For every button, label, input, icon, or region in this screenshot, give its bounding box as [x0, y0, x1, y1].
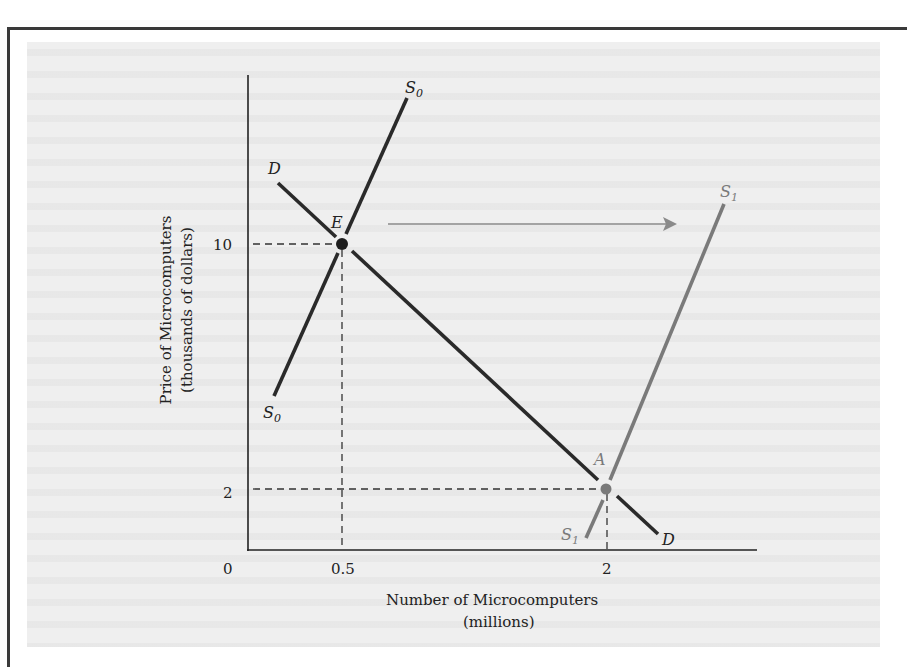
- x-axis-title: Number of Microcomputers: [386, 591, 598, 609]
- equilibrium-point-e: [336, 238, 348, 250]
- label-d-top: D: [267, 159, 281, 178]
- y-tick-10: 10: [213, 236, 232, 254]
- label-s0-bottom: S0: [263, 403, 281, 425]
- label-s0-top: S0: [405, 78, 423, 100]
- y-axis-title: Price of Microcomputers: [157, 216, 175, 405]
- label-s1-top: S1: [720, 182, 738, 204]
- label-point-e: E: [330, 213, 343, 232]
- x-tick-0-5: 0.5: [331, 560, 355, 578]
- demand-curve-d: [278, 183, 658, 534]
- shift-arrow: [388, 217, 677, 231]
- equilibrium-point-a: [601, 484, 612, 495]
- y-axis-subtitle: (thousands of dollars): [178, 227, 196, 393]
- y-tick-2: 2: [223, 484, 233, 502]
- x-tick-2: 2: [602, 560, 612, 578]
- x-axis-subtitle: (millions): [463, 613, 535, 631]
- dashed-guides-e: [253, 244, 342, 550]
- label-point-a: A: [592, 450, 606, 469]
- x-tick-0: 0: [223, 560, 233, 578]
- label-d-bottom: D: [661, 530, 675, 549]
- dashed-guides-a: [253, 489, 607, 550]
- label-s1-bottom: S1: [561, 525, 579, 547]
